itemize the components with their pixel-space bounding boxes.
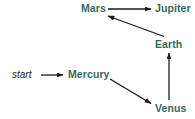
node-earth: Earth <box>155 39 182 50</box>
edge-mercury-to-venus <box>110 79 151 104</box>
node-venus: Venus <box>155 103 186 114</box>
edge-earth-to-mars <box>108 16 164 37</box>
node-mars: Mars <box>81 3 106 14</box>
node-start: start <box>12 69 31 80</box>
node-jupiter: Jupiter <box>155 3 191 14</box>
state-transition-diagram: start Mercury Venus Earth Mars Jupiter <box>0 0 195 119</box>
node-mercury: Mercury <box>68 69 110 80</box>
